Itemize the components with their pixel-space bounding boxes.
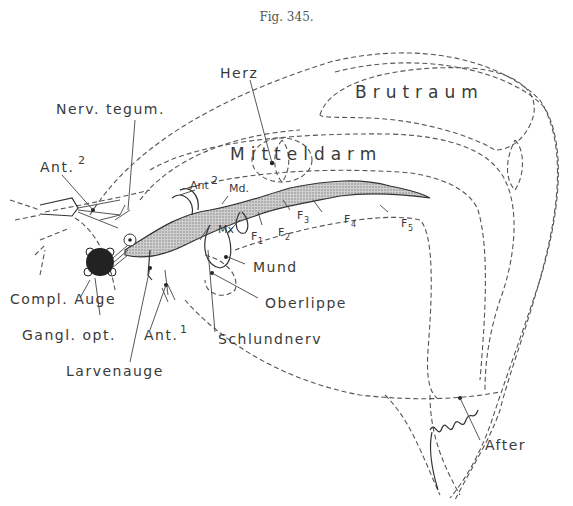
- label-nerv-tegum: Nerv. tegum.: [56, 101, 165, 117]
- label-md: Md.: [229, 182, 249, 195]
- label-f1-sub: 1: [258, 237, 263, 246]
- label-ant1: Ant.: [144, 327, 178, 343]
- label-mx: Mx: [218, 223, 234, 236]
- label-f4: F: [344, 213, 350, 226]
- label-f5: F: [401, 217, 407, 230]
- after-structure: [430, 396, 480, 490]
- label-mund: Mund: [253, 259, 298, 275]
- label-after: After: [485, 437, 526, 453]
- label-oberlippe: Oberlippe: [265, 295, 347, 311]
- mitteldarm-outline: [150, 134, 514, 400]
- label-gangl-opt: Gangl. opt.: [22, 327, 116, 343]
- label-f5-sub: 5: [408, 224, 413, 233]
- zoological-diagram: Fig. 345.: [0, 0, 573, 506]
- label-brutraum: Brutraum: [355, 82, 484, 102]
- label-schlundnerv: Schlundnerv: [218, 331, 322, 347]
- label-mitteldarm: Mitteldarm: [230, 144, 382, 164]
- label-f2-sub: 2: [285, 233, 290, 242]
- label-f4-sub: 4: [351, 220, 356, 229]
- label-ant2-mid-sup: 2: [211, 174, 218, 187]
- diagram-drawing: Herz Brutraum Mitteldarm Nerv. tegum. An…: [0, 0, 573, 506]
- label-ant2-mid: Ant: [190, 179, 209, 192]
- label-ant2-left-sup: 2: [78, 154, 85, 167]
- label-f1: F: [251, 230, 257, 243]
- label-compl-auge: Compl. Auge: [10, 291, 116, 307]
- abdomen-outline: [185, 300, 500, 495]
- label-ant2-left: Ant.: [40, 159, 74, 175]
- label-f2: F: [278, 226, 284, 239]
- antenna-1: [148, 250, 175, 302]
- label-larvenauge: Larvenauge: [66, 363, 164, 379]
- label-herz: Herz: [220, 65, 258, 81]
- label-f3: F: [297, 209, 303, 222]
- carapace-outline: [45, 53, 558, 500]
- label-ant1-sup: 1: [180, 323, 187, 336]
- label-f3-sub: 3: [304, 216, 309, 225]
- nerve-cord: [125, 181, 430, 268]
